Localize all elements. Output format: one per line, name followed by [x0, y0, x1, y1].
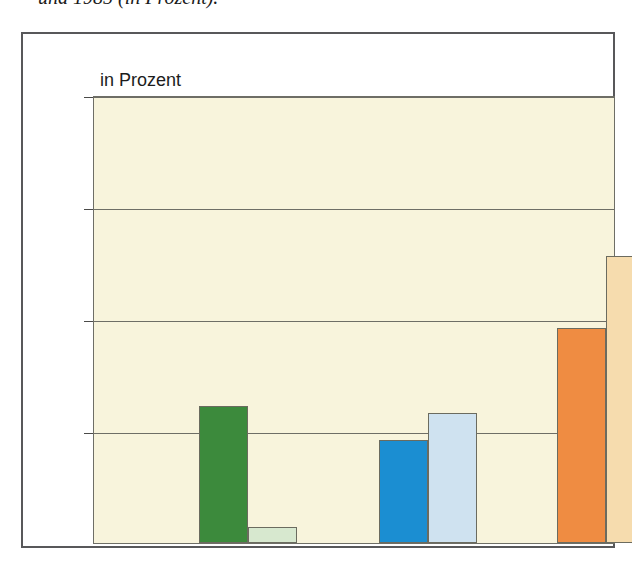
y-tick-75	[84, 209, 93, 210]
bar-1945-industrie	[379, 440, 428, 543]
y-tick-25	[84, 433, 93, 434]
caption-clip: und 1985 (in Prozent).	[0, 0, 632, 20]
bar-1945-dienstleistungen	[557, 328, 606, 543]
y-tick-100	[84, 97, 93, 98]
bar-1985-industrie	[428, 413, 477, 543]
figure-caption: und 1985 (in Prozent).	[38, 0, 218, 9]
gridline-75	[94, 209, 614, 210]
gridline-50	[94, 321, 614, 322]
bar-1985-landwirtschaft	[248, 527, 297, 543]
bar-1945-landwirtschaft	[199, 406, 248, 543]
y-tick-50	[84, 321, 93, 322]
bar-1985-dienstleistungen	[606, 256, 632, 543]
chart-frame: in Prozent 1945 1985 255075100Landwirtsc…	[21, 32, 615, 548]
plot-area: 255075100LandwirtschaftIndustrieDienstle…	[93, 96, 615, 544]
unit-label: in Prozent	[100, 70, 181, 91]
gridline-100	[94, 97, 614, 98]
gridline-25	[94, 433, 614, 434]
